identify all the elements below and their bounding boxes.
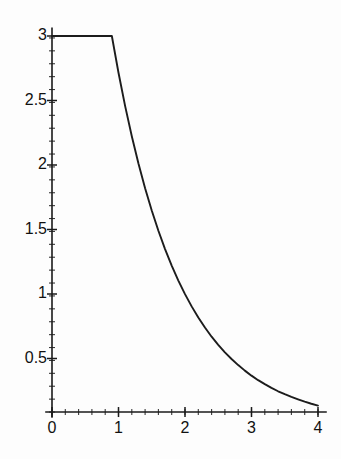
- x-tick-label: 1: [114, 419, 123, 436]
- x-tick-label: 4: [314, 419, 323, 436]
- x-tick-label: 0: [48, 419, 57, 436]
- x-axis-tick-labels: 01234: [48, 419, 323, 436]
- y-tick-label: 2.5: [25, 91, 47, 108]
- x-tick-label: 2: [181, 419, 190, 436]
- y-tick-label: 3: [38, 26, 47, 43]
- y-tick-label: 0.5: [25, 349, 47, 366]
- data-series-decay: [52, 36, 318, 406]
- line-chart-svg: 01234 0.511.522.53: [0, 0, 341, 459]
- y-axis-tick-labels: 0.511.522.53: [25, 26, 47, 366]
- y-tick-label: 2: [38, 155, 47, 172]
- x-tick-label: 3: [247, 419, 256, 436]
- y-tick-label: 1: [38, 284, 47, 301]
- y-tick-label: 1.5: [25, 220, 47, 237]
- chart-container: 01234 0.511.522.53: [0, 0, 341, 459]
